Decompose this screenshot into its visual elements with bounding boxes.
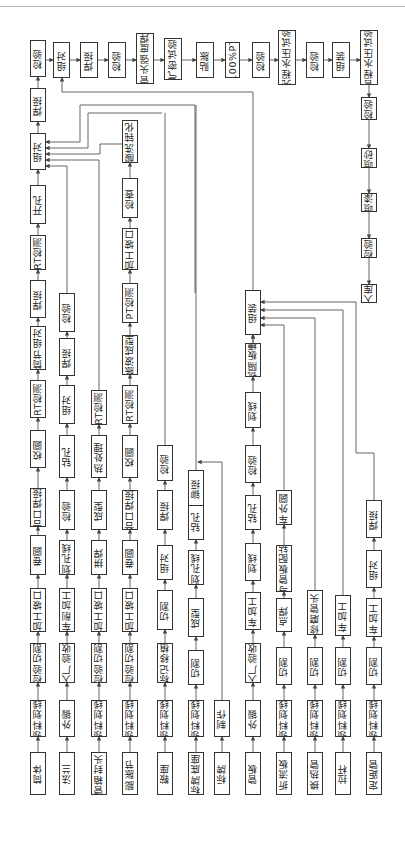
row-baffle-step-label: 点焊 [279, 605, 289, 626]
row-channel-head-step: 热处理 [91, 435, 107, 478]
row-tubesheet-step-label: 划线 [248, 552, 258, 573]
row-flange-start: 法兰 [59, 752, 75, 795]
row-spacer-tube-step: 切割 [366, 647, 382, 685]
row-channel-head-step: 拼焊 [91, 540, 107, 575]
row-tubesheet-step-label: 划线 [248, 400, 258, 421]
row-expansion-joint-step-label: 卷圆 [125, 547, 135, 568]
row-expansion-joint-step: 加工坡口 [122, 588, 138, 632]
row-tubesheet-start-label: 管板 [248, 763, 258, 784]
row-shell-step-label: RT检测 [33, 382, 43, 416]
row-nameplate-base-start-label: 标牌底座 [191, 753, 201, 795]
row-heat-tube-step-label: 切割 [310, 656, 320, 677]
row-flange-step-label: 划孔线 [62, 542, 72, 574]
main-second-step: 气密试验 [164, 38, 182, 80]
row-baffle-step: 点焊 [276, 598, 292, 632]
row-flange-step-label: 钻孔 [62, 446, 72, 467]
row-expansion-joint-step-label: 领料划线 [125, 700, 135, 737]
row-heat-tube-start-label: 换热管 [310, 758, 320, 790]
row-spacer-tube-step: 车加工 [366, 598, 382, 637]
row-saddle-step-label: 检验 [160, 453, 170, 474]
row-tie-rod-start: 拉杆 [335, 752, 351, 795]
row-shell-step: RT检测 [30, 380, 46, 418]
row-spacer-tube-step: 焊接 [366, 500, 382, 538]
row-tie-rod-step-label: 领料划线 [338, 700, 348, 737]
row-expansion-joint-start: 膨胀节 [122, 752, 138, 795]
row-expansion-joint-step-label: 加工坡口 [125, 228, 135, 270]
row-expansion-joint-step: 胀波成型 [122, 335, 138, 375]
row-baffle-start-label: 折流板 [279, 758, 289, 790]
row-expansion-joint-step-label: 合口焊接 [125, 490, 135, 530]
main-second-step: 壳程水压试验 [278, 30, 296, 85]
row-tubesheet-step-label: 入厂验收 [248, 643, 258, 683]
row-nameplate-base-step: 领料划线 [188, 700, 204, 737]
row-flange-step: 划孔线 [59, 540, 75, 575]
main-first-step-label: 焊接 [33, 95, 43, 116]
row-baffle-step: 车外圆 [276, 490, 292, 525]
row-saddle-step-label: 领料划线 [160, 700, 170, 737]
row-nameplate-step-label: 制作 [217, 708, 227, 729]
main-second-step: 贴胀 [196, 42, 214, 78]
row-expansion-joint-step: 加工坡口 [122, 228, 138, 270]
main-final-step: 喷漆 [361, 193, 377, 212]
row-shell-step: 合口焊接 [30, 488, 46, 527]
main-second-step-label: 组装 [336, 50, 346, 71]
row-nameplate-base-step: 成型 [188, 598, 204, 637]
main-second-step-label: 管程水压试验 [364, 30, 374, 85]
row-nameplate-base-step-label: 钻孔 [191, 511, 201, 532]
row-flange-step: 外锻 [59, 700, 75, 737]
main-second-step: 管头强度焊 [136, 33, 154, 84]
row-channel-head-step: 成型 [91, 490, 107, 530]
row-spacer-tube-start-label: 定距管 [369, 758, 379, 790]
row-tubesheet-step-label: 车加工 [248, 595, 258, 627]
row-channel-head-step: RT检测 [91, 390, 107, 425]
main-second-step-label: 贴胀 [200, 50, 210, 71]
row-tubesheet-step: 钻孔 [245, 495, 261, 530]
row-saddle-start: 鞍座 [157, 752, 173, 795]
row-saddle-step-label: 组对 [160, 552, 170, 573]
row-nameplate-start: 标牌 [214, 752, 230, 795]
row-channel-head-step-label: 热处理 [94, 441, 104, 473]
row-flange-step: 钻孔 [59, 435, 75, 478]
row-nameplate-base-step-label: 领料划线 [191, 700, 201, 737]
row-heat-tube-step: 切割 [307, 647, 323, 685]
row-expansion-joint-step: PT检测 [122, 283, 138, 323]
row-expansion-joint-step: 酸洗钝化 [122, 120, 138, 163]
row-nameplate-base-step-label: 铆接 [191, 478, 201, 499]
row-expansion-joint-step: 校圆 [122, 435, 138, 478]
row-shell-step-label: 卷圆 [33, 545, 43, 566]
row-tubesheet-step: 组装 [245, 290, 261, 335]
row-expansion-joint-step: 检验切割 [122, 643, 138, 683]
row-spacer-tube-step: 领料划线 [366, 700, 382, 737]
row-baffle-step-label: 车外圆 [279, 492, 289, 524]
row-channel-head-start: 管箱封头 [91, 752, 107, 795]
main-first-step: 焊接 [30, 88, 46, 122]
main-second-step-label: 壳程水压试验 [282, 30, 292, 85]
row-shell-step: 卷圆 [30, 535, 46, 575]
row-shell-step-label: 筒节组对 [33, 327, 43, 369]
row-flange-step: 车削加工 [59, 588, 75, 632]
main-final-step-label: 检验 [364, 98, 374, 119]
main-second-step: 100%PT [225, 42, 240, 78]
row-baffle-step: 与管板配钻 [276, 545, 292, 592]
row-flange-step-label: 车削加工 [62, 589, 72, 631]
row-tie-rod-start-label: 拉杆 [338, 763, 348, 784]
row-expansion-joint-start-label: 膨胀节 [125, 758, 135, 790]
row-expansion-joint-step-label: 加工坡口 [125, 589, 135, 631]
row-tubesheet-step-label: 外锻 [248, 708, 258, 729]
main-final-step: 喷砂 [361, 148, 377, 168]
row-tubesheet-step: 外锻 [245, 700, 261, 737]
row-channel-head-step-label: 拼焊 [94, 547, 104, 568]
row-flange-step: 组对 [59, 385, 75, 424]
row-channel-head-step-label: 加工坡口 [94, 589, 104, 631]
row-shell-step: 校圆 [30, 430, 46, 468]
row-channel-head-step-label: 领料划线 [94, 700, 104, 737]
row-flange-step-label: 外锻 [62, 708, 72, 729]
row-tubesheet-step-label: 检验 [248, 454, 258, 475]
row-shell-step-label: 检验切割 [33, 643, 43, 683]
row-saddle-step: 检验 [157, 445, 173, 481]
row-shell-step: RT检测 [30, 235, 46, 270]
row-expansion-joint-step-label: 检验切割 [125, 643, 135, 683]
main-first-step-label: 检验 [33, 48, 43, 69]
row-heat-tube-start: 换热管 [307, 752, 323, 795]
main-second-step: 检验 [108, 42, 126, 78]
